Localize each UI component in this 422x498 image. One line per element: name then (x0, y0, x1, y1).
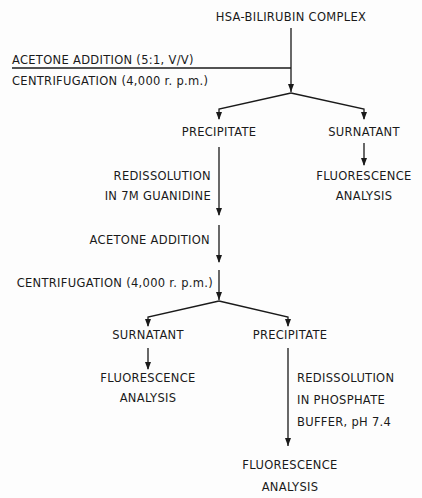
node-hsa-bilirubin-complex: HSA-BILIRUBIN COMPLEX (216, 10, 366, 24)
branch1-right-line (291, 93, 364, 119)
node-surnatant-2: SURNATANT (112, 328, 184, 342)
label-acetone-addition-2: ACETONE ADDITION (90, 233, 210, 247)
node-fluorescence-analysis-1-line1: FLUORESCENCE (316, 169, 411, 183)
label-redissolution-guanidine-line2: IN 7M GUANIDINE (105, 189, 211, 203)
node-fluorescence-analysis-1-line2: ANALYSIS (336, 189, 393, 203)
label-redissolution-phosphate-line1: REDISSOLUTION (297, 371, 394, 385)
branch2-right-line (219, 301, 288, 326)
node-precipitate-2: PRECIPITATE (253, 328, 328, 342)
node-fluorescence-analysis-3-line2: ANALYSIS (262, 480, 319, 494)
branch2-left-line (148, 301, 219, 326)
node-fluorescence-analysis-3-line1: FLUORESCENCE (242, 458, 337, 472)
label-redissolution-phosphate-line3: BUFFER, pH 7.4 (297, 415, 391, 429)
label-redissolution-phosphate-line2: IN PHOSPHATE (297, 393, 385, 407)
flowchart-diagram: HSA-BILIRUBIN COMPLEX ACETONE ADDITION (… (0, 0, 422, 498)
label-acetone-addition-ratio: ACETONE ADDITION (5:1, V/V) (12, 53, 194, 67)
node-fluorescence-analysis-2-line2: ANALYSIS (120, 391, 177, 405)
label-centrifugation-1: CENTRIFUGATION (4,000 r. p.m.) (12, 74, 208, 88)
label-centrifugation-2: CENTRIFUGATION (4,000 r. p.m.) (17, 276, 213, 290)
node-precipitate-1: PRECIPITATE (182, 125, 257, 139)
label-redissolution-guanidine-line1: REDISSOLUTION (114, 169, 211, 183)
branch1-left-line (219, 93, 291, 119)
node-fluorescence-analysis-2-line1: FLUORESCENCE (100, 371, 195, 385)
node-surnatant-1: SURNATANT (328, 125, 400, 139)
